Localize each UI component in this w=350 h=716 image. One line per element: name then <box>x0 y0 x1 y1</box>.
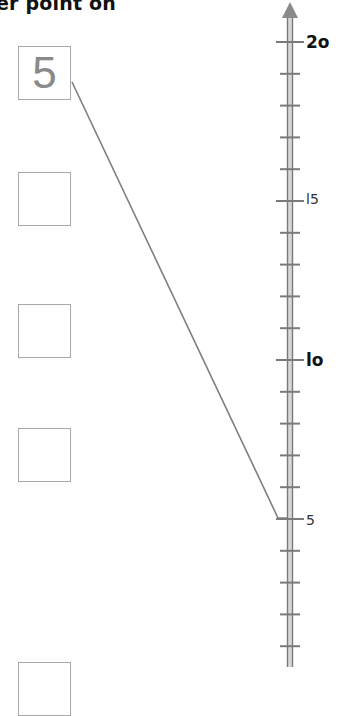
answer-box-5[interactable] <box>18 662 71 716</box>
tick-label-15: l5 <box>306 191 319 207</box>
tick-label-20: 2o <box>306 32 330 52</box>
tick-label-5: 5 <box>306 512 315 528</box>
tick-label-10: lo <box>306 350 324 370</box>
arrow-up-icon <box>282 2 298 18</box>
connector-line <box>72 82 290 518</box>
